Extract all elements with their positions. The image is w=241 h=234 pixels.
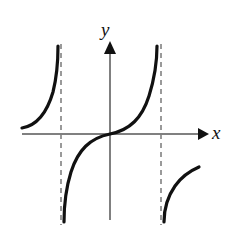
x-axis-arrowhead — [198, 128, 209, 140]
plot-canvas — [0, 0, 241, 234]
axis-group — [22, 41, 209, 220]
curve-branch-right — [164, 167, 199, 222]
y-axis-arrowhead — [104, 41, 116, 54]
curve-branch-left — [22, 46, 58, 128]
x-axis-label: x — [212, 123, 220, 142]
tangent-function-graph: y x — [0, 0, 241, 234]
y-axis-label: y — [101, 20, 109, 39]
